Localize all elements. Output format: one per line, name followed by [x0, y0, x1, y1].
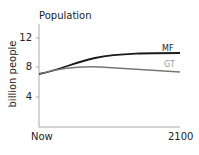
x-tick-2100: 2100: [168, 131, 193, 142]
x-tick-now: Now: [31, 131, 53, 142]
series-label-mf: MF: [162, 44, 174, 53]
series-label-gt: GT: [164, 60, 175, 69]
